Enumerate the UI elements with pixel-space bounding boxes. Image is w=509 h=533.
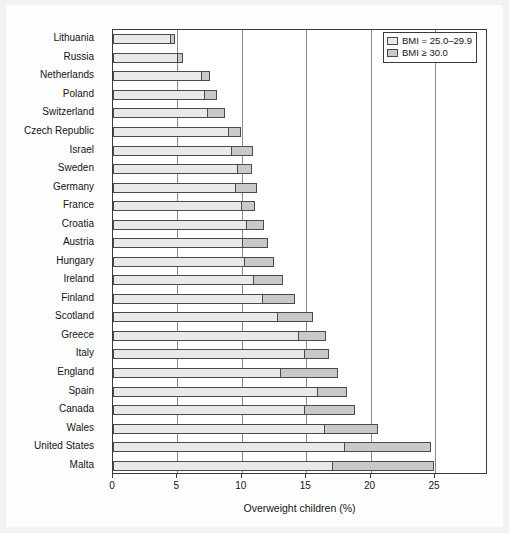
category-label-lithuania: Lithuania: [53, 33, 94, 43]
category-label-netherlands: Netherlands: [40, 70, 94, 80]
x-tick-5: [176, 474, 177, 478]
legend-label: BMI ≥ 30.0: [402, 48, 448, 58]
bar-segment-obese: [207, 108, 225, 118]
bar-segment-overweight: [113, 294, 262, 304]
bar-segment-obese: [242, 238, 268, 248]
category-label-france: France: [63, 200, 94, 210]
bar-segment-obese: [332, 461, 434, 471]
bar-segment-overweight: [113, 53, 177, 63]
bar-row: [113, 275, 283, 285]
bar-segment-obese: [317, 387, 348, 397]
bar-segment-obese: [177, 53, 182, 63]
bar-row: [113, 71, 210, 81]
bar-segment-obese: [246, 220, 264, 230]
x-tick-15: [305, 474, 306, 478]
x-tick-label-20: 20: [355, 480, 385, 491]
chart-legend: BMI = 25.0–29.9BMI ≥ 30.0: [383, 32, 477, 63]
plot-area: [112, 29, 487, 474]
bar-segment-obese: [253, 275, 283, 285]
category-label-germany: Germany: [53, 182, 94, 192]
x-tick-25: [434, 474, 435, 478]
bar-row: [113, 183, 257, 193]
bar-segment-overweight: [113, 442, 344, 452]
category-label-finland: Finland: [61, 293, 94, 303]
chart-screenshot: LithuaniaRussiaNetherlandsPolandSwitzerl…: [0, 0, 509, 533]
bar-segment-obese: [324, 424, 378, 434]
bar-segment-obese: [170, 34, 175, 44]
bar-segment-overweight: [113, 312, 277, 322]
bar-segment-overweight: [113, 257, 244, 267]
x-tick-10: [241, 474, 242, 478]
category-label-czech-republic: Czech Republic: [24, 126, 94, 136]
bar-segment-obese: [244, 257, 274, 267]
bar-segment-overweight: [113, 146, 231, 156]
legend-item: BMI ≥ 30.0: [387, 47, 472, 59]
bar-segment-obese: [262, 294, 294, 304]
category-label-scotland: Scotland: [55, 311, 94, 321]
bar-segment-overweight: [113, 238, 242, 248]
bar-segment-overweight: [113, 201, 241, 211]
category-label-israel: Israel: [70, 145, 94, 155]
x-tick-label-0: 0: [97, 480, 127, 491]
bar-row: [113, 146, 253, 156]
legend-swatch-icon: [387, 37, 398, 45]
bar-segment-obese: [201, 71, 210, 81]
bar-row: [113, 442, 431, 452]
category-label-spain: Spain: [68, 386, 94, 396]
bar-segment-obese: [228, 127, 241, 137]
x-tick-label-5: 5: [161, 480, 191, 491]
bar-row: [113, 257, 274, 267]
bar-segment-overweight: [113, 461, 332, 471]
bar-segment-obese: [298, 331, 325, 341]
category-label-ireland: Ireland: [63, 274, 94, 284]
bar-row: [113, 424, 378, 434]
category-label-england: England: [57, 367, 94, 377]
category-label-united-states: United States: [34, 441, 94, 451]
bar-segment-obese: [231, 146, 253, 156]
bar-row: [113, 90, 217, 100]
x-tick-0: [112, 474, 113, 478]
bar-segment-overweight: [113, 349, 304, 359]
category-label-poland: Poland: [63, 89, 94, 99]
x-axis-title: Overweight children (%): [112, 502, 487, 514]
bar-segment-overweight: [113, 275, 253, 285]
bar-row: [113, 368, 338, 378]
bar-segment-obese: [277, 312, 313, 322]
bar-segment-overweight: [113, 34, 170, 44]
category-label-wales: Wales: [67, 423, 94, 433]
bar-row: [113, 201, 255, 211]
bar-segment-overweight: [113, 405, 304, 415]
bar-row: [113, 387, 347, 397]
x-tick-label-25: 25: [419, 480, 449, 491]
bar-row: [113, 127, 241, 137]
category-label-hungary: Hungary: [56, 256, 94, 266]
bar-segment-overweight: [113, 90, 204, 100]
category-label-canada: Canada: [59, 404, 94, 414]
category-label-russia: Russia: [63, 52, 94, 62]
bar-row: [113, 331, 326, 341]
legend-label: BMI = 25.0–29.9: [402, 36, 472, 46]
bar-segment-obese: [235, 183, 257, 193]
category-label-croatia: Croatia: [62, 219, 94, 229]
category-label-italy: Italy: [76, 348, 94, 358]
bar-row: [113, 238, 268, 248]
bar-row: [113, 312, 313, 322]
bar-segment-overweight: [113, 368, 280, 378]
bar-row: [113, 461, 434, 471]
figure-card: LithuaniaRussiaNetherlandsPolandSwitzerl…: [6, 5, 503, 527]
bar-row: [113, 164, 252, 174]
bar-row: [113, 220, 264, 230]
category-label-sweden: Sweden: [58, 163, 94, 173]
bar-segment-overweight: [113, 331, 298, 341]
bar-segment-obese: [241, 201, 255, 211]
bar-segment-overweight: [113, 71, 201, 81]
bar-row: [113, 405, 355, 415]
category-label-malta: Malta: [70, 460, 94, 470]
legend-item: BMI = 25.0–29.9: [387, 35, 472, 47]
bar-row: [113, 34, 175, 44]
bar-segment-overweight: [113, 387, 317, 397]
bar-rows: [113, 30, 486, 473]
category-label-greece: Greece: [61, 330, 94, 340]
bar-segment-obese: [280, 368, 338, 378]
bar-row: [113, 294, 295, 304]
